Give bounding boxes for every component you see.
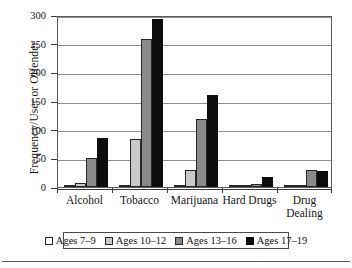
bar [97,138,108,187]
legend-swatch-icon [105,237,113,245]
bar [317,171,328,187]
bar-group [278,17,333,187]
bar [262,177,273,187]
bar [141,39,152,187]
x-tick-mark [112,188,113,193]
y-tick-label-150: 150 [30,97,46,107]
x-axis-category-labels: AlcoholTobaccoMarijuanaHard DrugsDrug De… [57,194,332,230]
y-tick-label-50: 50 [36,154,47,164]
bar-group [113,17,168,187]
legend-item[interactable]: Ages 10–12 [105,235,166,246]
bar [75,183,86,187]
x-tick-mark [167,188,168,193]
bar-group [223,17,278,187]
bar-group [58,17,113,187]
y-tick-label-250: 250 [30,40,46,50]
bar [119,185,130,187]
legend-label: Ages 10–12 [116,235,166,246]
y-tick-label-300: 300 [30,11,46,21]
y-tick-label-100: 100 [30,126,46,136]
bar [284,185,295,187]
bar [196,119,207,187]
bar [251,184,262,187]
bar [295,185,306,187]
bar-chart-figure: Frequency/User or Offender 0501001502002… [0,0,352,268]
legend-label: Ages 7–9 [56,235,96,246]
y-axis-ticks: 050100150200250300 [0,0,57,190]
legend-label: Ages 13–16 [186,235,236,246]
bar [185,170,196,187]
x-axis-label-marijuana: Marijuana [167,194,222,207]
plot-area [57,16,332,188]
legend-swatch-icon [175,237,183,245]
legend-item[interactable]: Ages 7–9 [45,235,96,246]
y-tick-label-200: 200 [30,68,46,78]
bar [152,19,163,187]
bottom-divider-rule [2,261,350,262]
bar [306,170,317,187]
x-axis-label-tobacco: Tobacco [112,194,167,207]
legend-swatch-icon [45,237,53,245]
bar [174,185,185,187]
bar [86,158,97,187]
bar-series-container [58,17,331,187]
legend-item[interactable]: Ages 13–16 [175,235,236,246]
x-tick-mark [222,188,223,193]
legend-swatch-icon [246,237,254,245]
bar [229,185,240,187]
x-axis-label-hard-drugs: Hard Drugs [222,194,277,207]
bar-group [168,17,223,187]
y-tick-label-0: 0 [41,183,46,193]
x-tick-mark [277,188,278,193]
chart-legend: Ages 7–9Ages 10–12Ages 13–16Ages 17–19 [63,232,289,249]
bar [207,95,218,187]
x-tick-mark [57,188,58,193]
legend-item[interactable]: Ages 17–19 [246,235,307,246]
x-axis-label-alcohol: Alcohol [57,194,112,207]
bar [64,185,75,187]
bar [240,185,251,187]
x-tick-mark [331,188,332,193]
bar [130,139,141,187]
legend-label: Ages 17–19 [257,235,307,246]
x-axis-label-drug-dealing: Drug Dealing [277,194,332,219]
